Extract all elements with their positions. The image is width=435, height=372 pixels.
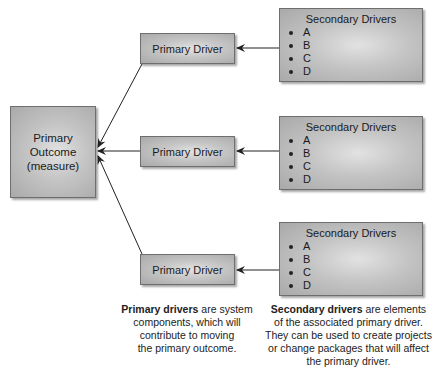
bullet-icon xyxy=(289,139,293,143)
list-item: B xyxy=(289,39,311,52)
secondary-drivers-title: Secondary Drivers xyxy=(280,121,422,133)
secondary-drivers-list: A B C D xyxy=(289,134,311,186)
primary-drivers-caption: Primary drivers are system components, w… xyxy=(112,303,262,355)
primary-outcome-line1: Primary xyxy=(27,131,79,145)
list-item-label: B xyxy=(303,253,310,266)
bullet-icon xyxy=(289,258,293,262)
primary-outcome-box: Primary Outcome (measure) xyxy=(10,106,96,198)
bullet-icon xyxy=(289,57,293,61)
list-item-label: C xyxy=(303,160,311,173)
caption-bold: Primary drivers xyxy=(121,303,198,315)
caption-text: the primary driver. xyxy=(262,355,435,368)
caption-text: the primary outcome. xyxy=(112,342,262,355)
caption-text: contribute to moving xyxy=(112,329,262,342)
caption-text: are system xyxy=(198,303,252,315)
caption-text: of the associated primary driver. xyxy=(262,316,435,329)
bullet-icon xyxy=(289,245,293,249)
list-item-label: D xyxy=(303,65,311,78)
secondary-drivers-list: A B C D xyxy=(289,26,311,78)
list-item-label: A xyxy=(303,26,310,39)
list-item-label: D xyxy=(303,173,311,186)
bullet-icon xyxy=(289,165,293,169)
secondary-drivers-box-2: Secondary Drivers A B C D xyxy=(279,116,423,190)
caption-text: They can be used to create projects xyxy=(262,329,435,342)
list-item-label: C xyxy=(303,52,311,65)
list-item: B xyxy=(289,253,311,266)
secondary-drivers-list: A B C D xyxy=(289,240,311,292)
list-item-label: D xyxy=(303,279,311,292)
bullet-icon xyxy=(289,178,293,182)
caption-text: are elements xyxy=(363,303,427,315)
secondary-drivers-box-3: Secondary Drivers A B C D xyxy=(279,222,423,296)
primary-outcome-line2: Outcome xyxy=(27,145,79,159)
bullet-icon xyxy=(289,31,293,35)
list-item: D xyxy=(289,65,311,78)
list-item-label: B xyxy=(303,39,310,52)
list-item: D xyxy=(289,173,311,186)
caption-bold: Secondary drivers xyxy=(271,303,363,315)
bullet-icon xyxy=(289,271,293,275)
arrow-primary-1-to-outcome xyxy=(98,64,142,147)
list-item: A xyxy=(289,134,311,147)
primary-driver-label: Primary Driver xyxy=(152,264,222,276)
bullet-icon xyxy=(289,284,293,288)
secondary-drivers-box-1: Secondary Drivers A B C D xyxy=(279,8,423,82)
list-item: C xyxy=(289,160,311,173)
caption-text: components, which will xyxy=(112,316,262,329)
primary-driver-label: Primary Driver xyxy=(152,43,222,55)
secondary-drivers-title: Secondary Drivers xyxy=(280,13,422,25)
secondary-drivers-title: Secondary Drivers xyxy=(280,227,422,239)
list-item: C xyxy=(289,266,311,279)
list-item: D xyxy=(289,279,311,292)
primary-outcome-line3: (measure) xyxy=(27,159,79,173)
list-item: C xyxy=(289,52,311,65)
bullet-icon xyxy=(289,70,293,74)
list-item-label: B xyxy=(303,147,310,160)
primary-driver-box-2: Primary Driver xyxy=(140,136,235,167)
list-item-label: A xyxy=(303,134,310,147)
arrow-primary-3-to-outcome xyxy=(98,156,142,254)
list-item-label: A xyxy=(303,240,310,253)
list-item: B xyxy=(289,147,311,160)
secondary-drivers-caption: Secondary drivers are elements of the as… xyxy=(262,303,435,368)
list-item: A xyxy=(289,26,311,39)
bullet-icon xyxy=(289,152,293,156)
bullet-icon xyxy=(289,44,293,48)
primary-driver-label: Primary Driver xyxy=(152,146,222,158)
primary-driver-box-3: Primary Driver xyxy=(140,254,235,285)
list-item-label: C xyxy=(303,266,311,279)
list-item: A xyxy=(289,240,311,253)
primary-driver-box-1: Primary Driver xyxy=(140,33,235,64)
caption-text: or change packages that will affect xyxy=(262,342,435,355)
